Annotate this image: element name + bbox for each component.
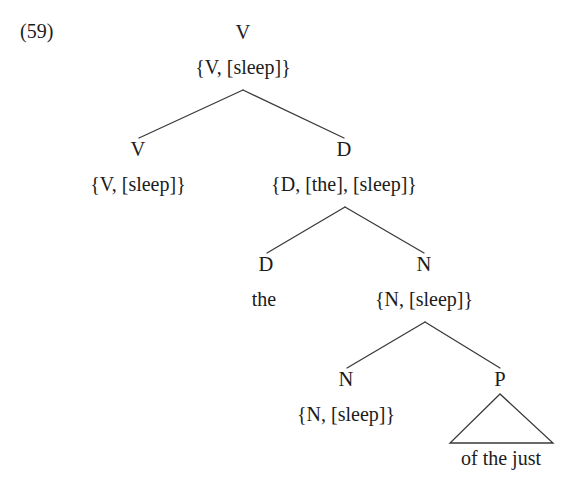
branch-d-phrase-to-d-head [267,207,345,253]
node-d-head-category: D [259,254,274,275]
node-d-head-terminal: the [252,289,276,309]
branch-n-phrase-to-p [425,322,500,368]
branch-n-phrase-to-n-inner [347,322,425,368]
syntax-tree-figure: (59) V {V, [sleep]} V {V, [sleep]} D {D,… [0,0,577,491]
branch-d-phrase-to-n-phrase [345,207,424,253]
phrasal-triangle [450,394,553,443]
node-p-category: P [494,369,505,390]
node-n-phrase-category: N [417,254,432,275]
node-n-phrase-features: {N, [sleep]} [375,289,473,309]
branch-root-to-d-phrase [243,90,344,138]
node-p-terminal: of the just [461,448,541,468]
node-root-features: {V, [sleep]} [195,57,290,77]
node-v-left-category: V [131,139,146,160]
node-root-category: V [236,22,251,43]
node-d-phrase-features: {D, [the], [sleep]} [271,174,417,194]
branch-root-to-v-left [139,90,243,138]
node-v-left-features: {V, [sleep]} [90,174,185,194]
node-n-inner-category: N [339,369,354,390]
node-n-inner-features: {N, [sleep]} [297,404,395,424]
node-d-phrase-category: D [337,139,352,160]
